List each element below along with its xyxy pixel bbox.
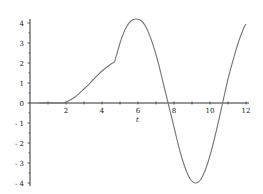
y-tick-label: - 1 [15, 120, 24, 128]
y-tick-label: 4 [20, 20, 25, 28]
y-tick-label: - 2 [15, 140, 24, 148]
y-tick-label: - 3 [15, 160, 24, 168]
x-axis: 24681012 [30, 102, 250, 116]
y-tick-label: 1 [20, 80, 24, 88]
line-chart: 24681012 - 4- 3- 2- 101234 t [0, 0, 263, 194]
x-tick-label: 8 [172, 107, 176, 115]
x-axis-label: t [136, 116, 139, 124]
y-tick-label: 2 [20, 60, 24, 68]
data-line [39, 19, 246, 183]
y-tick-label: - 4 [15, 180, 25, 188]
y-tick-label: 3 [20, 40, 24, 48]
x-tick-label: 12 [242, 107, 251, 115]
y-axis: - 4- 3- 2- 101234 [15, 19, 30, 188]
x-tick-label: 10 [206, 107, 215, 115]
x-tick-label: 6 [136, 107, 141, 115]
y-tick-label: 0 [20, 100, 24, 108]
x-tick-label: 4 [100, 107, 105, 115]
x-tick-label: 2 [64, 107, 68, 115]
